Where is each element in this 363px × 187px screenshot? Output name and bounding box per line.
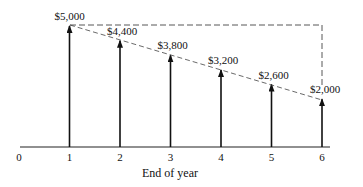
cash-flow-diagram bbox=[0, 0, 363, 187]
value-label: $5,000 bbox=[54, 10, 84, 22]
x-tick-label: 6 bbox=[319, 151, 325, 163]
value-label: $3,800 bbox=[157, 39, 187, 51]
value-label: $4,400 bbox=[107, 25, 137, 37]
value-label: $2,600 bbox=[258, 69, 288, 81]
x-tick-label: 5 bbox=[269, 151, 275, 163]
value-label: $3,200 bbox=[208, 54, 238, 66]
x-tick-label: 2 bbox=[117, 151, 123, 163]
value-label: $2,000 bbox=[310, 83, 340, 95]
x-tick-label: 4 bbox=[218, 151, 224, 163]
x-tick-label: 0 bbox=[16, 151, 22, 163]
x-tick-label: 3 bbox=[168, 151, 174, 163]
x-tick-label: 1 bbox=[67, 151, 73, 163]
x-axis-label: End of year bbox=[142, 166, 198, 181]
